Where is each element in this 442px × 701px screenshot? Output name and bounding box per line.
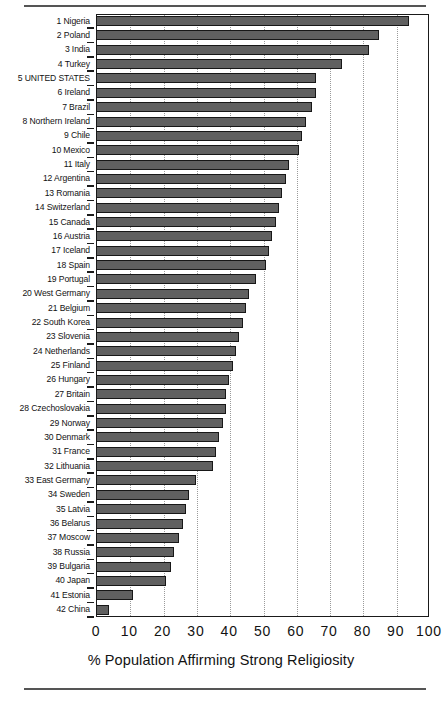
bar [96, 475, 196, 485]
bar-row [96, 416, 429, 430]
bar [96, 504, 186, 514]
y-tick-mark [87, 444, 94, 446]
bottom-divider-rule [24, 688, 426, 690]
y-tick-mark [87, 616, 94, 618]
y-tick-mark [87, 271, 94, 273]
category-label: 22 South Korea [0, 317, 90, 327]
bar-row [96, 201, 429, 215]
y-tick-mark [87, 458, 94, 460]
bar [96, 576, 166, 586]
bar-row [96, 43, 429, 57]
bar-row [96, 402, 429, 416]
category-label: 38 Russia [0, 547, 90, 557]
y-tick-mark [87, 42, 94, 44]
bar [96, 160, 289, 170]
bar-row [96, 545, 429, 559]
y-tick-mark [87, 472, 94, 474]
bar-row [96, 143, 429, 157]
bar-row [96, 344, 429, 358]
bar [96, 389, 226, 399]
y-tick-mark [87, 415, 94, 417]
bar [96, 447, 216, 457]
bar [96, 303, 246, 313]
category-label: 34 Sweden [0, 489, 90, 499]
bar [96, 45, 369, 55]
category-label: 16 Austria [0, 231, 90, 241]
x-tick-label-80: 80 [354, 622, 371, 640]
bar [96, 590, 133, 600]
bar-row [96, 473, 429, 487]
bar [96, 332, 239, 342]
y-tick-mark [87, 185, 94, 187]
bar [96, 30, 379, 40]
category-label: 2 Poland [0, 30, 90, 40]
y-tick-mark [87, 114, 94, 116]
category-label: 8 Northern Ireland [0, 116, 90, 126]
x-tick-label-20: 20 [154, 622, 171, 640]
category-axis-labels: 1 Nigeria2 Poland3 India4 Turkey5 UNITED… [0, 14, 94, 617]
bar-row [96, 258, 429, 272]
y-tick-mark [87, 315, 94, 317]
category-label: 7 Brazil [0, 102, 90, 112]
y-tick-mark [87, 587, 94, 589]
category-label: 32 Lithuania [0, 461, 90, 471]
bar [96, 145, 299, 155]
category-label: 26 Hungary [0, 374, 90, 384]
x-tick-label-40: 40 [221, 622, 238, 640]
bar-row [96, 588, 429, 602]
bar-row [96, 459, 429, 473]
category-label: 18 Spain [0, 260, 90, 270]
category-label: 25 Finland [0, 360, 90, 370]
category-label: 15 Canada [0, 217, 90, 227]
y-tick-mark [87, 27, 94, 29]
x-tick-label-0: 0 [92, 622, 101, 640]
bar-row [96, 57, 429, 71]
bar [96, 289, 249, 299]
category-label: 28 Czechoslovakia [0, 403, 90, 413]
y-tick-mark [87, 286, 94, 288]
bar-row [96, 244, 429, 258]
bar [96, 59, 342, 69]
x-tick-label-30: 30 [187, 622, 204, 640]
bar [96, 88, 316, 98]
y-tick-mark [87, 516, 94, 518]
category-label: 42 China [0, 604, 90, 614]
y-tick-mark [87, 559, 94, 561]
bar-row [96, 100, 429, 114]
y-tick-mark [87, 171, 94, 173]
x-axis-tick-labels: 0102030405060708090100 [0, 622, 442, 642]
category-label: 4 Turkey [0, 59, 90, 69]
bar-row [96, 301, 429, 315]
bar-row [96, 14, 429, 28]
bar [96, 547, 174, 557]
bar [96, 246, 269, 256]
category-label: 39 Bulgaria [0, 561, 90, 571]
category-label: 20 West Germany [0, 288, 90, 298]
bar [96, 203, 279, 213]
y-tick-mark [87, 214, 94, 216]
y-tick-mark [87, 200, 94, 202]
category-label: 27 Britain [0, 389, 90, 399]
y-tick-mark [87, 243, 94, 245]
bar-row [96, 172, 429, 186]
category-label: 23 Slovenia [0, 331, 90, 341]
bar-row [96, 574, 429, 588]
y-tick-mark [87, 429, 94, 431]
bar-row [96, 488, 429, 502]
bar-row [96, 287, 429, 301]
bar [96, 519, 183, 529]
category-label: 36 Belarus [0, 518, 90, 528]
y-tick-mark [87, 85, 94, 87]
category-label: 19 Portugal [0, 274, 90, 284]
category-label: 1 Nigeria [0, 16, 90, 26]
category-label: 3 India [0, 44, 90, 54]
y-tick-mark [87, 544, 94, 546]
bar [96, 16, 409, 26]
bar-row [96, 445, 429, 459]
x-axis-title: % Population Affirming Strong Religiosit… [0, 652, 442, 668]
y-tick-mark [87, 257, 94, 259]
x-tick-label-70: 70 [321, 622, 338, 640]
bar-row [96, 330, 429, 344]
bar [96, 274, 256, 284]
bar-series [96, 14, 429, 617]
